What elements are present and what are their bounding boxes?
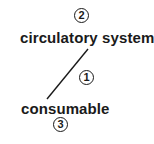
diagram-canvas: 2 circulatory system 1 consumable 3 [0,0,154,144]
node-badge-circulatory-system: 2 [74,8,89,23]
node-label-consumable: consumable [21,101,110,117]
edge-badge: 1 [79,70,94,85]
node-badge-consumable: 3 [53,117,68,132]
node-label-circulatory-system: circulatory system [20,30,154,46]
